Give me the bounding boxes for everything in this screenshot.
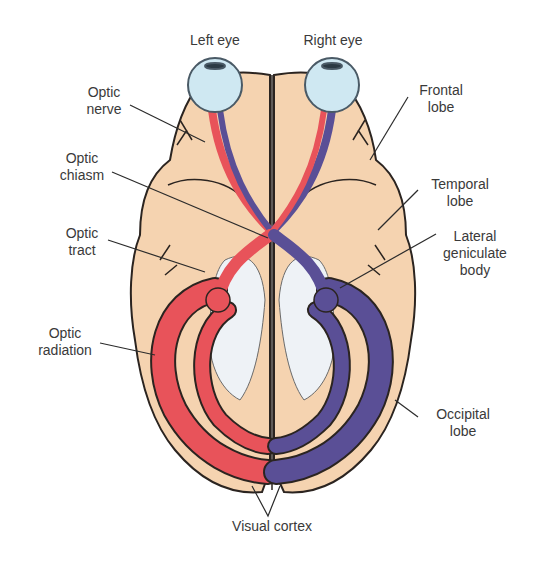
label-optic-radiation: Optic radiation xyxy=(28,325,102,359)
label-optic-nerve: Optic nerve xyxy=(74,84,134,118)
label-frontal-lobe: Frontal lobe xyxy=(406,82,476,116)
label-temporal-lobe: Temporal lobe xyxy=(418,176,502,210)
label-visual-cortex: Visual cortex xyxy=(210,518,334,535)
label-optic-tract: Optic tract xyxy=(52,225,112,259)
label-optic-chiasm: Optic chiasm xyxy=(52,150,112,184)
label-lateral-geniculate-body: Lateral geniculate body xyxy=(430,228,520,279)
label-occipital-lobe: Occipital lobe xyxy=(418,406,508,440)
label-left-eye: Left eye xyxy=(170,32,260,49)
label-right-eye: Right eye xyxy=(288,32,378,49)
